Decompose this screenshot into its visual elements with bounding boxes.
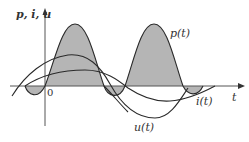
voltage-curve-label: u(t) <box>134 122 154 133</box>
t-axis-arrow-icon <box>238 83 245 89</box>
x-axis-label: t <box>232 92 236 103</box>
origin-label: 0 <box>47 88 53 98</box>
axes <box>10 14 238 126</box>
power-curve-label: p(t) <box>170 28 190 39</box>
current-curve-label: i(t) <box>196 96 213 107</box>
power-waveform-diagram <box>0 0 249 142</box>
y-axis-label: p, i, u <box>16 9 51 20</box>
